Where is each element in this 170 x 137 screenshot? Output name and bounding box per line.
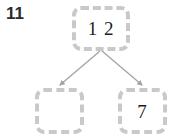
worksheet-problem-canvas: 11 1 2 7: [0, 0, 170, 137]
child-number-value-right: 7: [137, 102, 148, 121]
child-number-box-left[interactable]: [35, 88, 84, 134]
parent-number-box[interactable]: 1 2: [72, 6, 130, 51]
parent-number-value: 1 2: [88, 19, 115, 38]
child-number-box-right[interactable]: 7: [118, 88, 167, 134]
arrow-to-left-child: [60, 51, 100, 85]
problem-number-label: 11: [6, 4, 24, 24]
arrow-to-right-child: [102, 51, 142, 85]
